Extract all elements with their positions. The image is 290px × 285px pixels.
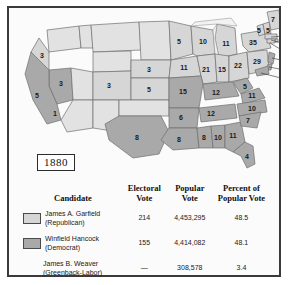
legend-swatch-democrat xyxy=(23,238,41,249)
votes-oregon: 3 xyxy=(40,52,44,59)
table-row: James B. Weaver (Greenback-Labor) — 308,… xyxy=(23,256,269,281)
header-electoral-vote-line2: Vote xyxy=(123,194,166,204)
candidate-party-line2: (Republican) xyxy=(45,219,85,226)
votes-west-virginia: 5 xyxy=(243,83,247,90)
leader-line-maryland xyxy=(261,73,279,79)
votes-michigan: 11 xyxy=(222,40,230,47)
votes-mississippi: 8 xyxy=(202,134,206,141)
votes-alabama: 10 xyxy=(214,134,222,141)
legend-swatch-none xyxy=(23,264,39,273)
electoral-vote-weaver: — xyxy=(123,256,166,281)
state-colorado xyxy=(93,71,131,100)
votes-iowa: 11 xyxy=(180,64,188,71)
legend-swatch-republican xyxy=(23,213,41,224)
header-popular-vote-line2: Vote xyxy=(166,194,214,204)
votes-virginia: 11 xyxy=(248,92,256,99)
percent-weaver: 3.4 xyxy=(214,256,269,281)
votes-missouri: 15 xyxy=(179,88,187,95)
votes-maine: 7 xyxy=(271,16,275,23)
results-table: Candidate Electoral Vote Popular Vote Pe… xyxy=(23,184,269,281)
votes-california-1: 1 xyxy=(53,110,57,117)
votes-new-york: 35 xyxy=(249,39,257,46)
figure-inner: 3 3 5 1 3 3 5 5 11 10 11 21 15 22 15 6 8… xyxy=(9,8,279,275)
votes-texas: 8 xyxy=(135,134,139,141)
candidate-cell-hancock: Winfield Hancock (Democrat) xyxy=(23,231,123,256)
votes-illinois: 21 xyxy=(202,66,210,73)
state-new-jersey xyxy=(268,52,275,64)
popular-vote-hancock: 4,414,082 xyxy=(166,231,214,256)
votes-florida: 4 xyxy=(245,153,249,160)
state-nebraska xyxy=(131,60,171,78)
header-percent-line2: Popular Vote xyxy=(214,194,269,204)
popular-vote-weaver: 308,578 xyxy=(166,256,214,281)
electoral-vote-garfield: 214 xyxy=(123,206,166,231)
candidate-party-line2: (Democrat) xyxy=(45,244,80,251)
state-utah-territory xyxy=(71,68,93,100)
votes-pennsylvania: 29 xyxy=(253,58,261,65)
state-tennessee xyxy=(199,104,237,122)
figure-frame: 3 3 5 1 3 3 5 5 11 10 11 21 15 22 15 6 8… xyxy=(7,6,281,277)
votes-wisconsin: 10 xyxy=(199,38,207,45)
state-wyoming-territory xyxy=(93,51,131,72)
header-candidate-label: Candidate xyxy=(23,194,123,204)
candidate-name-line1: James B. Weaver xyxy=(43,260,98,267)
state-montana-territory xyxy=(91,22,141,52)
table-row: James A. Garfield (Republican) 214 4,453… xyxy=(23,206,269,231)
votes-ohio: 22 xyxy=(234,62,242,69)
leader-line-connecticut xyxy=(270,43,279,52)
votes-indiana: 15 xyxy=(218,66,226,73)
candidate-name-line1: Winfield Hancock xyxy=(45,235,99,242)
electoral-vote-hancock: 155 xyxy=(123,231,166,256)
year-label: 1880 xyxy=(37,154,75,171)
percent-hancock: 48.1 xyxy=(214,231,269,256)
votes-new-hampshire: 5 xyxy=(266,27,270,34)
votes-kansas: 5 xyxy=(147,86,151,93)
state-arizona-territory xyxy=(61,100,93,132)
candidate-cell-garfield: James A. Garfield (Republican) xyxy=(23,206,123,231)
candidate-name-line1: James A. Garfield xyxy=(45,210,100,217)
state-indian-territory xyxy=(119,100,169,116)
state-arkansas xyxy=(169,108,199,128)
votes-tennessee: 12 xyxy=(207,110,215,117)
state-kentucky xyxy=(203,82,239,100)
votes-california: 5 xyxy=(35,92,39,99)
candidate-cell-weaver: James B. Weaver (Greenback-Labor) xyxy=(23,256,123,281)
votes-nebraska: 3 xyxy=(147,66,151,73)
votes-vermont: 5 xyxy=(257,27,261,34)
header-candidate: Candidate xyxy=(23,184,123,206)
votes-arkansas: 6 xyxy=(179,114,183,121)
results-table-container: Candidate Electoral Vote Popular Vote Pe… xyxy=(23,184,269,281)
votes-louisiana: 8 xyxy=(177,136,181,143)
votes-kentucky: 12 xyxy=(212,89,220,96)
state-washington-territory xyxy=(47,26,81,52)
state-minnesota xyxy=(169,21,193,60)
votes-minnesota: 5 xyxy=(177,38,181,45)
table-header-row: Candidate Electoral Vote Popular Vote Pe… xyxy=(23,184,269,206)
popular-vote-garfield: 4,453,295 xyxy=(166,206,214,231)
votes-colorado: 3 xyxy=(107,82,111,89)
lake-superior xyxy=(191,18,237,26)
header-popular-vote: Popular Vote xyxy=(166,184,214,206)
state-dakota-territory xyxy=(139,21,171,60)
votes-nevada: 3 xyxy=(59,80,63,87)
state-idaho-territory xyxy=(79,25,93,48)
percent-garfield: 48.5 xyxy=(214,206,269,231)
votes-north-carolina: 10 xyxy=(248,105,256,112)
header-electoral-vote: Electoral Vote xyxy=(123,184,166,206)
candidate-party-line2: (Greenback-Labor) xyxy=(43,269,102,276)
votes-georgia: 11 xyxy=(229,132,237,139)
header-percent-popular-vote: Percent of Popular Vote xyxy=(214,184,269,206)
votes-south-carolina: 7 xyxy=(246,117,250,124)
table-row: Winfield Hancock (Democrat) 155 4,414,08… xyxy=(23,231,269,256)
